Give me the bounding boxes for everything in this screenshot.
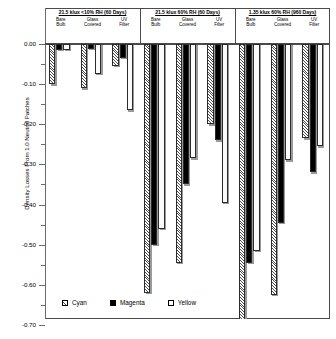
bar-yellow-g2-c2 [190,44,196,158]
y-tick-label: -0.20 [0,120,36,127]
bar-magenta-g3-c3 [310,44,316,172]
bar-yellow-g1-c2 [95,44,101,74]
bar-cyan-g3-c2 [271,44,277,295]
bar-magenta-g2-c2 [183,44,189,184]
legend-item-magenta: Magenta [110,299,145,306]
bar-magenta-g1-c2 [88,44,94,49]
bar-cyan-g3-c1 [239,44,245,319]
chart-screenshot: Density Losses From 1.0 Neutral Patches … [0,0,336,339]
y-axis-title: Density Losses From 1.0 Neutral Patches [23,64,30,244]
y-tick-label: -0.30 [0,160,36,167]
legend-item-yellow: Yellow [168,299,196,306]
y-tick-label: -0.50 [0,241,36,248]
y-tick-label: 0.00 [0,40,36,47]
bar-yellow-g1-c1 [63,44,69,50]
legend-label: Yellow [178,299,196,306]
y-tick-major [39,325,45,326]
bar-yellow-g3-c3 [317,44,323,146]
bars-layer [45,8,330,319]
y-tick-label: -0.40 [0,201,36,208]
bar-cyan-g2-c3 [207,44,213,124]
bar-cyan-g1-c3 [112,44,118,66]
y-tick-label: -0.10 [0,80,36,87]
y-tick-label: -0.70 [0,321,36,328]
legend-label: Magenta [120,299,145,306]
legend-swatch-magenta [110,300,116,306]
legend-swatch-yellow [168,300,174,306]
legend-item-cyan: Cyan [62,299,87,306]
bar-cyan-g1-c2 [81,44,87,88]
bar-magenta-g2-c1 [151,44,157,245]
legend-swatch-cyan [62,300,68,306]
bar-yellow-g2-c3 [222,44,228,203]
y-tick-label: -0.60 [0,281,36,288]
bar-yellow-g2-c1 [158,44,164,229]
legend-label: Cyan [72,299,87,306]
bar-magenta-g3-c2 [278,44,284,223]
bar-magenta-g2-c3 [215,44,221,140]
bar-cyan-g2-c1 [144,44,150,293]
bar-magenta-g3-c1 [246,44,252,263]
bar-magenta-g1-c3 [120,44,126,58]
chart-legend: CyanMagentaYellow [62,296,196,309]
bar-yellow-g1-c3 [127,44,133,110]
bar-magenta-g1-c1 [56,44,62,50]
bar-yellow-g3-c2 [285,44,291,160]
bar-yellow-g3-c1 [253,44,259,251]
bar-cyan-g3-c3 [302,44,308,138]
bar-cyan-g2-c2 [176,44,182,263]
bar-cyan-g1-c1 [49,44,55,84]
